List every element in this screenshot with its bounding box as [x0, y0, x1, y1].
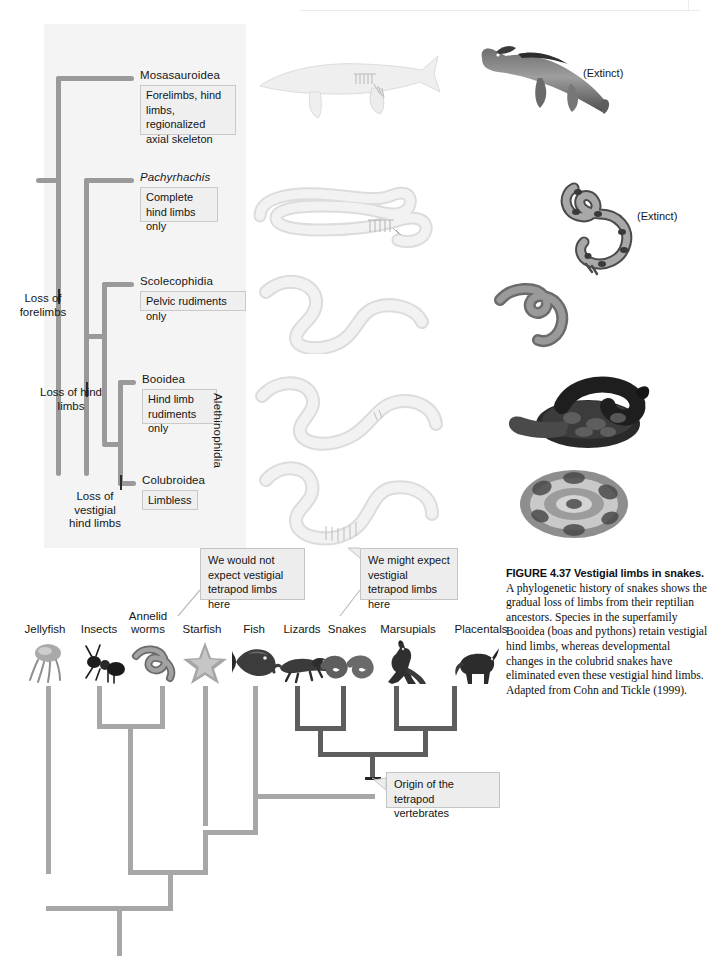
- trait-box-scolecophidia: Pelvic rudiments only: [140, 291, 246, 311]
- node-label-loss-of-vestigial-hind-limbs: Loss of vestigial hind limbs: [62, 490, 128, 531]
- branch-root-vertical: [56, 76, 61, 476]
- branch-alethinophidia-vertical: [102, 282, 107, 338]
- branch-booidea-colubroidea-vertical: [118, 380, 123, 486]
- taxon-label-pachyrhachis: Pachyrhachis: [140, 171, 210, 183]
- origin-callout-leader: [0, 534, 716, 956]
- header-rule: [300, 10, 700, 11]
- taxon-label-scolecophidia: Scolecophidia: [140, 275, 213, 287]
- silhouette-scolecophidia: [252, 264, 442, 354]
- node-label-loss-of-hind-limbs: Loss of hind limbs: [36, 386, 106, 413]
- branch-root-stub: [36, 178, 58, 183]
- specimen-booidea: [496, 362, 662, 454]
- trait-box-mosasauroidea: Forelimbs, hind limbs, regionalized axia…: [140, 85, 236, 135]
- specimen-scolecophidia: [492, 274, 596, 354]
- branch-mosasauroidea: [56, 76, 134, 81]
- page-header: [0, 0, 716, 14]
- taxon-label-colubroidea: Colubroidea: [142, 474, 205, 486]
- trait-box-booidea: Hind limb rudiments only: [142, 389, 217, 424]
- branch-scolecophidia: [102, 282, 134, 287]
- branch-booidea: [118, 380, 136, 385]
- clade-label-alethinophidia: Alethinophidia: [212, 393, 224, 468]
- taxon-label-mosasauroidea: Mosasauroidea: [140, 69, 220, 81]
- silhouette-mosasauroidea: [252, 44, 442, 122]
- specimen-colubroidea: [512, 462, 638, 542]
- specimen-pachyrhachis: [552, 170, 656, 282]
- node-tick-loss-of-vestigial-hind-limbs: [120, 475, 122, 490]
- silhouette-booidea: [250, 366, 445, 458]
- trait-box-pachyrhachis: Complete hind limbs only: [140, 187, 218, 222]
- figure-4-38: We would not expect vestigial tetrapod l…: [0, 534, 716, 956]
- textbook-page: Mosasauroidea Forelimbs, hind limbs, reg…: [0, 0, 716, 956]
- node-label-loss-of-forelimbs: Loss of forelimbs: [10, 292, 76, 319]
- header-divider: [688, 0, 689, 12]
- figure-4-37: Mosasauroidea Forelimbs, hind limbs, reg…: [0, 24, 716, 534]
- trait-box-colubroidea: Limbless: [142, 490, 198, 510]
- taxon-label-booidea: Booidea: [142, 373, 185, 385]
- branch-node1-vertical: [84, 178, 89, 476]
- specimen-mosasaur: [476, 38, 612, 124]
- branch-pachyrhachis: [84, 178, 134, 183]
- silhouette-pachyrhachis: [250, 164, 450, 254]
